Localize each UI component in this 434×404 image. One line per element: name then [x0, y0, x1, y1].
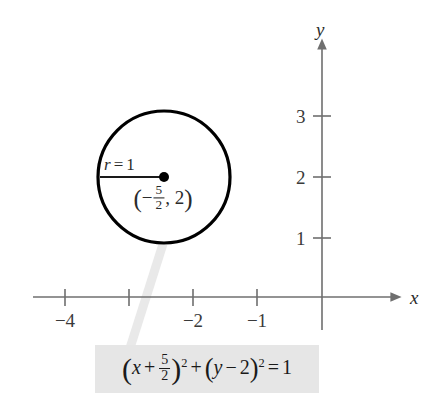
- center-fraction: 52: [154, 183, 165, 212]
- eq-fraction-denominator: 2: [159, 368, 170, 384]
- callout-leader-line: [130, 244, 163, 348]
- graph-canvas: [0, 0, 434, 404]
- radius-annotation: r=1: [104, 156, 135, 173]
- eq-equals: =: [265, 356, 282, 378]
- radius-variable: r: [104, 155, 111, 174]
- y-tick-label-1: 1: [296, 229, 306, 248]
- eq-fraction-numerator: 5: [159, 353, 170, 368]
- y-axis-label: y: [316, 20, 324, 39]
- eq-x-variable: x: [132, 356, 141, 378]
- radius-equals: =: [111, 155, 127, 174]
- eq-exponent-2: 2: [258, 356, 264, 370]
- y-tick-label-3: 3: [296, 107, 306, 126]
- x-axis-label: x: [410, 288, 418, 307]
- center-fraction-numerator: 5: [154, 183, 165, 197]
- center-coordinate-annotation: (−52, 2): [133, 183, 192, 212]
- center-point-marker: [159, 172, 169, 182]
- equation-text: (x+52)2+(y−2)2=1: [122, 352, 292, 386]
- eq-fraction: 52: [159, 353, 170, 384]
- eq-rhs: 1: [282, 356, 292, 378]
- x-tick-label--2: −2: [183, 311, 203, 330]
- eq-y-variable: y: [214, 356, 223, 378]
- eq-minus: −: [222, 356, 239, 378]
- x-tick-label--1: −1: [247, 311, 267, 330]
- eq-two: 2: [240, 356, 250, 378]
- x-tick-label--4: −4: [55, 311, 75, 330]
- center-close-paren: ): [184, 186, 192, 211]
- y-tick-label-2: 2: [296, 168, 306, 187]
- center-fraction-denominator: 2: [154, 198, 165, 213]
- x-axis: [33, 289, 392, 306]
- eq-open-paren: (: [122, 352, 132, 386]
- center-minus-sign: −: [142, 187, 153, 208]
- figure-container: x y −4 −2 −1 1 2 3 r=1 (−52, 2) (x+52)2+…: [0, 0, 434, 404]
- eq-close-paren: ): [171, 352, 181, 386]
- eq-plus-1: +: [141, 356, 158, 378]
- center-comma: ,: [165, 187, 175, 208]
- radius-value: 1: [126, 155, 135, 174]
- center-y-value: 2: [175, 187, 185, 208]
- eq-plus-2: +: [187, 356, 204, 378]
- y-axis: [313, 48, 331, 330]
